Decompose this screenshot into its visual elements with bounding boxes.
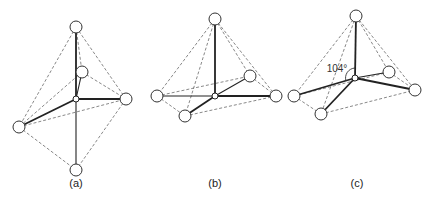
atom	[209, 13, 221, 25]
center-atom	[352, 75, 358, 81]
atom	[151, 90, 163, 102]
figure-canvas: (a) (b)	[0, 0, 432, 202]
panel-b-bonds	[157, 19, 276, 116]
center-atom	[73, 96, 79, 102]
atom	[76, 66, 88, 78]
atom	[13, 121, 25, 133]
panel-c-label: (c)	[351, 177, 364, 189]
atom	[270, 90, 282, 102]
atom	[179, 110, 191, 122]
atom	[315, 108, 327, 120]
atom	[244, 70, 256, 82]
atom	[350, 10, 362, 22]
panel-b-label: (b)	[208, 177, 221, 189]
panel-b: (b)	[151, 13, 282, 189]
panel-a-label: (a)	[69, 177, 82, 189]
atom	[70, 21, 82, 33]
panel-c: 104° (c)	[288, 10, 421, 189]
panel-a: (a)	[13, 21, 132, 189]
panel-c-bonds	[294, 16, 415, 114]
atom	[70, 164, 82, 176]
panel-b-dashed-edges	[157, 19, 276, 116]
angle-label: 104°	[327, 63, 348, 74]
atom	[288, 90, 300, 102]
atom	[409, 84, 421, 96]
atom	[383, 66, 395, 78]
center-atom	[212, 93, 218, 99]
atom	[120, 93, 132, 105]
